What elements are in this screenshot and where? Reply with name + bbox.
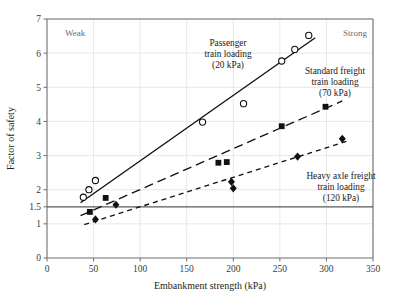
data-point [86,187,92,193]
corner-label-strong: Strong [343,28,368,38]
y-tick-label: 3 [36,151,41,161]
x-tick-label: 300 [319,264,334,274]
data-point [215,160,221,166]
chart-figure: 050100150200250300350011.5234567Embankme… [0,0,403,308]
trend-line [84,141,347,224]
y-tick-label: 5 [36,83,41,93]
data-point [80,194,86,200]
series-annotation-line: (70 kPa) [319,88,351,99]
corner-label-weak: Weak [65,28,86,38]
y-tick-label: 7 [36,14,41,24]
data-point [199,119,205,125]
x-tick-label: 200 [226,264,241,274]
y-tick-label: 0 [36,253,41,263]
x-tick-label: 250 [273,264,288,274]
y-axis-title: Factor of safety [5,107,16,170]
series-annotation-line: Standard freight [305,66,366,76]
y-tick-label: 4 [36,117,41,127]
data-point [92,177,98,183]
data-point [323,104,329,110]
series-annotation-line: train loading [317,182,365,192]
data-point [230,184,237,192]
data-point [279,123,285,129]
x-tick-label: 100 [133,264,148,274]
series-annotation-line: (120 kPa) [323,193,359,204]
data-point [87,209,93,215]
series-annotation-line: train loading [311,77,359,87]
series-annotation: Standard freighttrain loading(70 kPa) [305,66,366,99]
data-point [228,178,235,186]
trend-line [81,101,343,216]
y-tick-label: 1.5 [29,202,41,212]
data-point [306,32,312,38]
y-tick-label: 6 [36,49,41,59]
series-annotation-line: train loading [204,49,252,59]
x-tick-label: 50 [89,264,99,274]
data-point [279,58,285,64]
y-tick-label: 1 [36,219,41,229]
series-annotation-line: Passenger [209,38,247,48]
x-tick-label: 0 [45,264,50,274]
data-point [92,215,99,223]
series-annotation-line: (20 kPa) [212,60,244,71]
data-point [294,152,301,160]
data-point [240,101,246,107]
factor-of-safety-scatter-chart: 050100150200250300350011.5234567Embankme… [0,0,403,308]
series-annotation: Heavy axle freighttrain loading(120 kPa) [306,171,376,204]
data-point [292,46,298,52]
data-point [224,159,230,165]
x-tick-label: 350 [366,264,381,274]
x-tick-label: 150 [180,264,195,274]
x-axis-title: Embankment strength (kPa) [154,280,266,292]
data-point [103,195,109,201]
series-annotation-line: Heavy axle freight [306,171,376,181]
y-tick-label: 2 [36,185,41,195]
series-annotation: Passengertrain loading(20 kPa) [204,38,252,71]
